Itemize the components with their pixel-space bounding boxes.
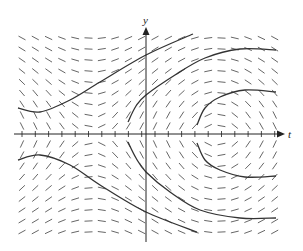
slope-segment	[125, 174, 131, 179]
slope-segment	[218, 199, 226, 200]
slope-segment	[272, 69, 278, 74]
slope-segment	[244, 220, 251, 223]
slope-segment	[192, 164, 198, 169]
slope-segment	[272, 197, 278, 202]
slope-segment	[85, 103, 93, 104]
slope-segment	[98, 209, 106, 210]
slope-segment	[85, 93, 93, 94]
slope-segment	[153, 122, 157, 129]
slope-segment	[231, 231, 239, 233]
slope-segment	[218, 210, 226, 211]
slope-segment	[125, 230, 132, 233]
slope-segment	[98, 153, 105, 156]
lower-middle-curve	[128, 142, 276, 219]
slope-segment	[166, 101, 171, 108]
slope-segment	[19, 230, 26, 234]
slope-segment	[45, 69, 51, 74]
slope-segment	[112, 123, 117, 129]
slope-segment	[98, 198, 106, 199]
slope-segment	[246, 152, 251, 158]
upper-right-curve	[197, 90, 276, 125]
slope-segment	[71, 59, 79, 61]
slope-segment	[245, 186, 252, 190]
slope-segment	[204, 198, 212, 199]
slope-segment	[85, 166, 93, 167]
slope-segment	[178, 208, 185, 212]
slope-segment	[166, 90, 171, 96]
slope-segment	[45, 58, 52, 62]
slope-segment	[191, 80, 198, 84]
slope-segment	[19, 69, 25, 74]
slope-segment	[19, 79, 25, 85]
slope-segment	[179, 101, 184, 107]
slope-segment	[140, 140, 144, 147]
slope-segment	[126, 90, 132, 95]
slope-segment	[205, 153, 212, 156]
slope-segment	[19, 58, 26, 63]
slope-segment	[178, 230, 185, 233]
slope-segment	[20, 140, 23, 147]
slope-segment	[125, 80, 131, 85]
slope-segment	[85, 125, 93, 126]
lower-left-curve	[18, 155, 197, 232]
slope-segment	[125, 47, 132, 50]
t-axis-label: t	[288, 128, 292, 140]
slope-segment	[258, 36, 265, 39]
slope-segment	[259, 101, 264, 107]
slope-segment	[245, 197, 252, 201]
slope-segment	[258, 208, 265, 212]
slope-segment	[58, 220, 65, 223]
slope-segment	[180, 141, 184, 148]
slope-segment	[33, 174, 38, 180]
slope-segment	[152, 90, 157, 96]
slope-segment	[71, 70, 79, 73]
slope-segment	[139, 197, 145, 202]
slope-segment	[259, 112, 263, 119]
slope-segment	[231, 37, 239, 39]
slope-segment	[232, 153, 238, 158]
upper-middle-curve	[128, 49, 276, 122]
slope-segment	[152, 58, 159, 63]
slope-segment	[72, 187, 79, 190]
slope-segment	[34, 140, 37, 147]
slope-segment	[152, 230, 159, 234]
slope-segment	[165, 69, 171, 74]
slope-segment	[204, 70, 212, 72]
slope-segment	[71, 198, 79, 200]
slope-segment	[85, 188, 93, 189]
slope-segment	[258, 185, 264, 190]
slope-segment	[165, 230, 172, 234]
slope-segment	[152, 69, 158, 74]
slope-segment	[272, 185, 278, 190]
slope-segment	[245, 80, 252, 84]
slope-segment	[218, 93, 226, 94]
slope-segment	[166, 152, 170, 159]
slope-segment	[98, 92, 106, 94]
slope-segment	[20, 152, 24, 159]
slope-segment	[98, 220, 106, 221]
slope-segment	[245, 163, 251, 169]
slope-segment	[232, 113, 238, 118]
slope-segment	[165, 197, 171, 202]
slope-segment	[153, 111, 157, 118]
slope-segment	[218, 114, 226, 115]
slope-segment	[45, 36, 52, 39]
slope-segment	[72, 113, 78, 118]
slope-segment	[32, 208, 39, 212]
slope-segment	[218, 82, 226, 83]
slope-segment	[46, 185, 52, 190]
slope-segment	[273, 140, 276, 147]
slope-segment	[98, 59, 106, 60]
slope-segment	[112, 112, 117, 118]
slope-segment	[179, 112, 183, 119]
slope-segment	[152, 36, 159, 40]
slope-segment	[152, 208, 159, 213]
slope-segment	[20, 101, 24, 108]
slope-segment	[125, 219, 132, 222]
slope-segment	[258, 219, 265, 223]
slope-segment	[72, 153, 78, 158]
slope-segment	[32, 79, 38, 85]
slope-segment	[85, 60, 93, 61]
slope-segment	[273, 101, 277, 108]
slope-segment	[218, 166, 226, 167]
